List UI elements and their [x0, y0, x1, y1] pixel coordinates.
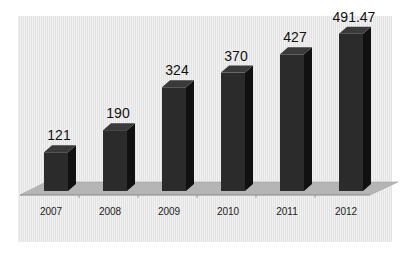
x-tick-label: 2010	[217, 206, 240, 217]
bar-2012	[339, 27, 371, 191]
data-label: 370	[224, 48, 248, 64]
x-tick-label: 2008	[99, 206, 122, 217]
data-label: 491.47	[333, 9, 376, 25]
data-labels: 121190324370427491.47	[47, 9, 375, 144]
bar-series	[44, 27, 371, 191]
data-label: 324	[165, 62, 189, 78]
bar-2007	[44, 145, 76, 191]
bar-2010	[221, 66, 253, 191]
bar-2011	[280, 47, 312, 191]
data-label: 427	[283, 29, 307, 45]
x-tick-label: 2007	[40, 206, 63, 217]
x-tick-label: 2011	[276, 206, 298, 217]
bar-2008	[103, 123, 135, 191]
x-axis-ticks	[79, 195, 315, 198]
x-tick-label: 2012	[335, 206, 358, 217]
x-axis-labels: 200720082009201020112012	[40, 206, 358, 217]
column-chart: 121190324370427491.47 200720082009201020…	[0, 0, 409, 253]
data-label: 190	[106, 105, 130, 121]
bar-2009	[162, 80, 194, 191]
data-label: 121	[47, 127, 71, 143]
x-tick-label: 2009	[158, 206, 181, 217]
